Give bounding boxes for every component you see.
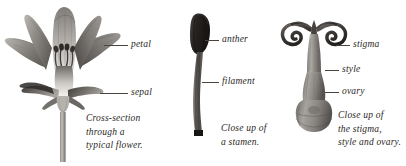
leader-line-sepal bbox=[100, 93, 128, 94]
receptacle-shape bbox=[57, 96, 70, 113]
label-style: style bbox=[342, 65, 360, 75]
leader-line-anther bbox=[205, 40, 219, 41]
leader-line-petal bbox=[104, 45, 128, 46]
label-stigma: stigma bbox=[353, 40, 380, 50]
botanical-illustration-plate: petal sepal Cross-section through a typi… bbox=[0, 0, 406, 166]
stem-shape bbox=[60, 112, 66, 162]
leader-line-ovary bbox=[325, 92, 339, 93]
stamen-illustration bbox=[182, 10, 222, 138]
filament-shape bbox=[193, 52, 203, 132]
label-ovary: ovary bbox=[342, 87, 365, 97]
caption-line: the stigma, bbox=[338, 123, 401, 137]
caption-line: a stamen. bbox=[221, 136, 266, 150]
caption-line: style and ovary. bbox=[338, 136, 401, 150]
caption-flower-cross-section: Cross-section through a typical flower. bbox=[86, 112, 143, 153]
label-sepal: sepal bbox=[131, 88, 152, 98]
caption-line: Cross-section bbox=[86, 112, 143, 126]
style-shape bbox=[307, 34, 321, 72]
caption-line: Close up of bbox=[221, 122, 266, 136]
leader-line-style bbox=[325, 70, 339, 71]
caption-line: through a bbox=[86, 126, 143, 140]
caption-pistil: Close up of the stigma, style and ovary. bbox=[338, 109, 401, 150]
caption-line: typical flower. bbox=[86, 139, 143, 153]
label-filament: filament bbox=[222, 77, 255, 87]
label-petal: petal bbox=[131, 40, 151, 50]
filament-base-shape bbox=[194, 130, 203, 136]
sepal-shape-right bbox=[68, 86, 103, 99]
caption-line: Close up of bbox=[338, 109, 401, 123]
label-anther: anther bbox=[222, 35, 248, 45]
leader-line-filament bbox=[202, 82, 219, 83]
leader-line-stigma bbox=[336, 45, 350, 46]
caption-stamen: Close up of a stamen. bbox=[221, 122, 266, 149]
